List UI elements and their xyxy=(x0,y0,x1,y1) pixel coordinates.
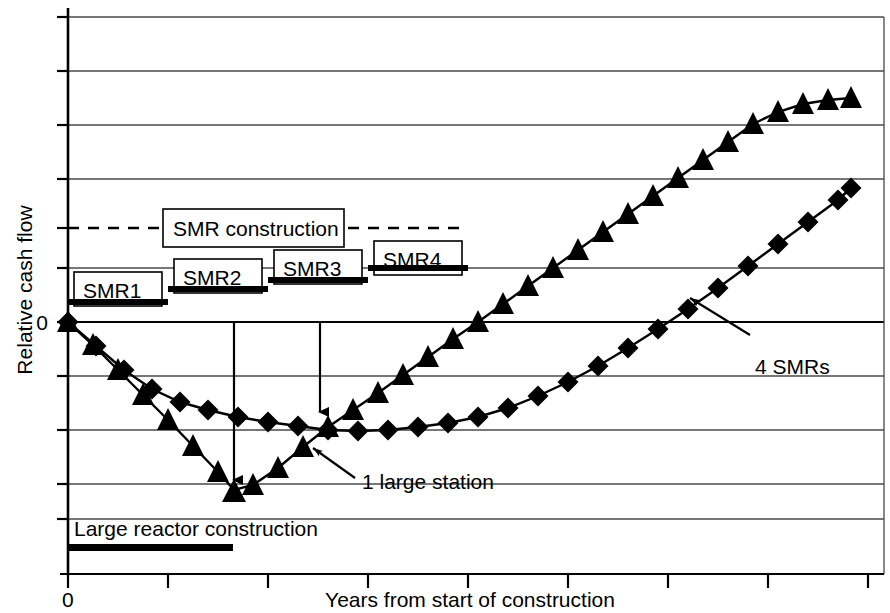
timeline-smr2-label: SMR2 xyxy=(183,266,241,289)
x-axis-ticks xyxy=(68,574,868,588)
timeline-smr2: SMR2 xyxy=(168,259,268,293)
large-reactor-label: Large reactor construction xyxy=(74,517,318,540)
annotation-1-large-station-label: 1 large station xyxy=(362,470,494,493)
y-axis-zero-tick-label: 0 xyxy=(36,311,48,334)
smr-construction-label: SMR construction xyxy=(173,217,339,240)
timeline-large-reactor: Large reactor construction xyxy=(68,517,318,551)
timeline-smr4: SMR4 xyxy=(368,241,468,275)
cashflow-chart: SMR construction SMR4 SMR3 SMR2 SMR1 xyxy=(0,0,890,613)
timeline-smr3-label: SMR3 xyxy=(283,257,341,280)
timeline-smr3: SMR3 xyxy=(268,250,368,284)
y-axis-ticks xyxy=(57,17,68,519)
timeline-smr1: SMR1 xyxy=(68,272,168,306)
annotation-4-smrs: 4 SMRs xyxy=(690,298,830,378)
timeline-smr1-label: SMR1 xyxy=(83,279,141,302)
x-axis-title: Years from start of construction xyxy=(325,588,615,611)
smr-construction-box: SMR construction xyxy=(163,209,344,247)
annotation-1-large-station: 1 large station xyxy=(313,448,494,493)
x-axis-origin-tick-label: 0 xyxy=(62,588,74,611)
series-1-large-station xyxy=(57,86,862,502)
annotation-4-smrs-label: 4 SMRs xyxy=(755,355,830,378)
chart-canvas: SMR construction SMR4 SMR3 SMR2 SMR1 xyxy=(0,0,890,613)
y-axis-title: Relative cash flow xyxy=(13,205,36,375)
